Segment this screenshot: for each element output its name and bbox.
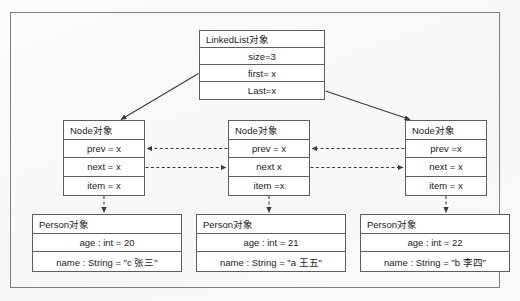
node-2-field-item: item =x xyxy=(229,177,309,195)
node-2-header: Node对象 xyxy=(229,121,309,140)
linkedlist-field-last: Last=x xyxy=(200,82,324,99)
person-1-field-name: name : String = "c 张三" xyxy=(33,252,181,271)
linkedlist-header: LinkedList对象 xyxy=(200,31,324,48)
person-object-box-2: Person对象 age : int = 21 name : String = … xyxy=(196,214,346,272)
node-3-header: Node对象 xyxy=(406,121,486,140)
node-2-field-next: next x xyxy=(229,158,309,177)
person-1-header: Person对象 xyxy=(33,215,181,234)
person-2-field-age: age : int = 21 xyxy=(197,234,345,253)
person-3-field-name: name : String = "b 李四" xyxy=(361,252,509,271)
diagram-canvas: LinkedList对象 size=3 first= x Last=x Node… xyxy=(0,0,520,301)
node-1-field-next: next = x xyxy=(64,158,144,177)
person-3-header: Person对象 xyxy=(361,215,509,234)
node-3-field-next: next = x xyxy=(406,158,486,177)
person-2-header: Person对象 xyxy=(197,215,345,234)
node-object-box-3: Node对象 prev =x next = x item = x xyxy=(405,120,487,196)
person-object-box-1: Person对象 age : int = 20 name : String = … xyxy=(32,214,182,272)
node-1-field-item: item = x xyxy=(64,177,144,195)
person-1-field-age: age : int = 20 xyxy=(33,234,181,253)
node-object-box-2: Node对象 prev = x next x item =x xyxy=(228,120,310,196)
node-3-field-prev: prev =x xyxy=(406,140,486,159)
node-2-field-prev: prev = x xyxy=(229,140,309,159)
person-3-field-age: age : int = 22 xyxy=(361,234,509,253)
node-object-box-1: Node对象 prev = x next = x item = x xyxy=(63,120,145,196)
node-1-header: Node对象 xyxy=(64,121,144,140)
node-1-field-prev: prev = x xyxy=(64,140,144,159)
node-3-field-item: item = x xyxy=(406,177,486,195)
linkedlist-field-first: first= x xyxy=(200,65,324,82)
person-2-field-name: name : String = "a 王五" xyxy=(197,252,345,271)
person-object-box-3: Person对象 age : int = 22 name : String = … xyxy=(360,214,510,272)
linkedlist-object-box: LinkedList对象 size=3 first= x Last=x xyxy=(199,30,325,100)
linkedlist-field-size: size=3 xyxy=(200,48,324,65)
